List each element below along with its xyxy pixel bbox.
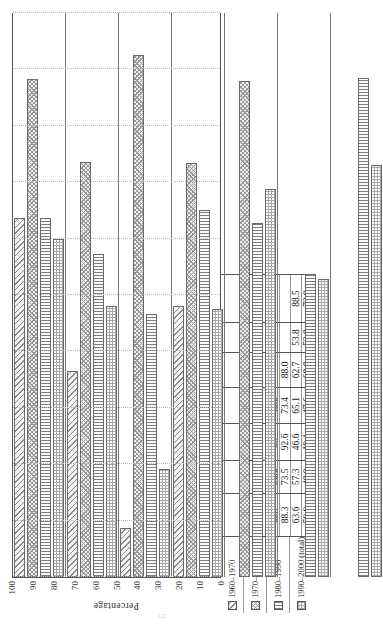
bar bbox=[186, 163, 197, 577]
gridline-60 bbox=[13, 237, 220, 238]
legend-swatch-icon bbox=[274, 601, 283, 610]
plot-area bbox=[12, 13, 221, 578]
y-tick-90: 90 bbox=[28, 581, 38, 590]
y-tick-20: 20 bbox=[174, 581, 184, 590]
bar bbox=[371, 165, 382, 577]
bar bbox=[146, 314, 157, 577]
y-tick-70: 70 bbox=[70, 581, 80, 590]
y-tick-40: 40 bbox=[132, 581, 142, 590]
bar-slot bbox=[239, 13, 250, 577]
gridline-90 bbox=[13, 68, 220, 69]
gridline-70 bbox=[13, 181, 220, 182]
bar bbox=[173, 306, 184, 577]
bar-group-vietnamese bbox=[330, 13, 383, 577]
legend-swatch-icon bbox=[297, 601, 306, 610]
gridline-100 bbox=[13, 12, 220, 13]
y-tick-100: 100 bbox=[7, 581, 17, 595]
bar-slot bbox=[332, 13, 343, 577]
y-tick-50: 50 bbox=[112, 581, 122, 590]
bar bbox=[27, 79, 38, 577]
bar bbox=[133, 54, 144, 576]
y-axis-tick-labels: 0102030405060708090100 bbox=[12, 578, 221, 598]
gridline-20 bbox=[13, 463, 220, 464]
y-tick-30: 30 bbox=[153, 581, 163, 590]
legend-swatch-icon bbox=[251, 601, 260, 610]
bar-slot bbox=[265, 13, 276, 577]
y-axis-label: Percentage bbox=[12, 598, 221, 613]
bar bbox=[305, 273, 316, 576]
bar bbox=[265, 188, 276, 576]
bar-slot bbox=[345, 13, 356, 577]
bar bbox=[239, 80, 250, 576]
gridline-50 bbox=[13, 294, 220, 295]
bar-slot bbox=[305, 13, 316, 577]
bar-slot bbox=[358, 13, 369, 577]
bar-slot bbox=[279, 13, 290, 577]
bar bbox=[67, 370, 78, 576]
bar bbox=[106, 306, 117, 577]
bar-group-indians bbox=[277, 13, 330, 577]
gridline-80 bbox=[13, 124, 220, 125]
bar-chart-figure: Percentage 0102030405060708090100 1960–1… bbox=[12, 13, 312, 613]
bar-slot bbox=[371, 13, 382, 577]
gridline-10 bbox=[13, 519, 220, 520]
bar bbox=[199, 209, 210, 576]
y-tick-0: 0 bbox=[216, 581, 226, 586]
legend-swatch-icon bbox=[228, 601, 237, 610]
bar bbox=[212, 308, 223, 576]
bar bbox=[120, 527, 131, 576]
bar bbox=[159, 469, 170, 577]
bar-slot bbox=[226, 13, 237, 577]
y-tick-60: 60 bbox=[91, 581, 101, 590]
chart-plot-row: Percentage 0102030405060708090100 bbox=[12, 13, 221, 613]
bar-slot bbox=[252, 13, 263, 577]
bar bbox=[252, 223, 263, 577]
page-number: 122 bbox=[0, 613, 324, 619]
bar bbox=[358, 77, 369, 576]
bar bbox=[93, 253, 104, 576]
gridline-30 bbox=[13, 406, 220, 407]
gridline-40 bbox=[13, 350, 220, 351]
bar-slot bbox=[318, 13, 329, 577]
bar-slot bbox=[292, 13, 303, 577]
bar bbox=[14, 217, 25, 576]
y-tick-10: 10 bbox=[195, 581, 205, 590]
bar bbox=[40, 218, 51, 577]
bar bbox=[318, 279, 329, 577]
gridline-0 bbox=[13, 576, 220, 577]
y-tick-80: 80 bbox=[49, 581, 59, 590]
bar-group-koreans bbox=[224, 13, 277, 577]
bar bbox=[80, 162, 91, 577]
